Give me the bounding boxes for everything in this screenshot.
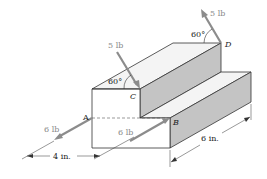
force-label-d: 5 lb [210, 9, 225, 18]
force-label-a: 6 lb [44, 125, 59, 134]
dimension-label-4in: 4 in. [53, 152, 71, 161]
dimension-arrow-6in-back [244, 117, 250, 122]
angle-label-d: 60° [191, 30, 205, 39]
force-label-c: 5 lb [108, 41, 123, 50]
angle-label-c: 60° [108, 77, 122, 86]
dimension-arrow-6in-front [171, 157, 177, 162]
point-label-b: B [172, 118, 179, 127]
stepped-block-diagram: 5 lb 60° C 5 lb 60° D 6 lb A 6 lb B 4 in… [0, 0, 267, 179]
force-arrowhead-d [201, 9, 208, 18]
point-label-d: D [224, 40, 232, 49]
angle-arc-d [204, 29, 212, 43]
dimension-label-6in: 6 in. [201, 134, 219, 143]
force-arrow-d [205, 16, 221, 43]
extension-line-4in-left [22, 141, 54, 159]
point-label-a: A [82, 113, 89, 122]
force-label-b: 6 lb [118, 128, 133, 137]
point-label-c: C [130, 92, 136, 101]
